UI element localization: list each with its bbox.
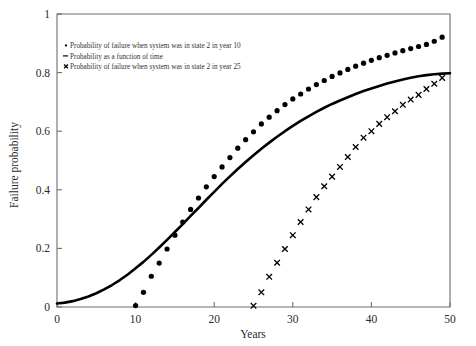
data-point-marker	[298, 91, 303, 96]
data-point-marker	[330, 74, 335, 79]
legend-dot-icon	[65, 44, 67, 46]
y-tick-label: 0	[44, 301, 50, 313]
data-point-marker	[322, 78, 327, 83]
x-tick-label: 20	[208, 313, 220, 325]
data-point-marker	[306, 86, 311, 91]
data-point-marker	[204, 184, 209, 189]
data-point-marker	[259, 121, 264, 126]
x-tick-label: 30	[287, 313, 299, 325]
x-tick-label: 0	[54, 313, 60, 325]
data-point-marker	[141, 290, 146, 295]
data-point-marker	[385, 53, 390, 58]
data-point-marker	[157, 260, 162, 265]
legend-item-label: Probability as a function of time	[70, 53, 163, 61]
data-point-marker	[251, 129, 256, 134]
y-axis-title: Failure probability	[8, 122, 21, 208]
data-point-marker	[408, 46, 413, 51]
x-axis-title: Years	[240, 328, 266, 340]
data-point-marker	[164, 246, 169, 251]
data-point-marker	[212, 174, 217, 179]
y-tick-label: 0.2	[36, 242, 51, 254]
x-tick-label: 50	[444, 313, 456, 325]
y-tick-label: 1	[44, 8, 50, 20]
data-point-marker	[172, 233, 177, 238]
data-point-marker	[235, 146, 240, 151]
data-point-marker	[282, 102, 287, 107]
data-point-marker	[440, 35, 445, 40]
data-point-marker	[227, 155, 232, 160]
data-point-marker	[353, 64, 358, 69]
y-tick-label: 0.4	[36, 184, 51, 196]
x-tick-label: 40	[366, 313, 378, 325]
y-tick-label: 0.8	[36, 67, 51, 79]
data-point-marker	[149, 274, 154, 279]
legend-item-label: Probability of failure when system was i…	[70, 63, 241, 71]
data-point-marker	[345, 67, 350, 72]
chart-figure: 01020304050 00.20.40.60.81 Years Failure…	[0, 0, 476, 346]
data-point-marker	[188, 207, 193, 212]
data-point-marker	[337, 70, 342, 75]
data-point-marker	[267, 115, 272, 120]
data-point-marker	[377, 55, 382, 60]
x-tick-label: 10	[130, 313, 142, 325]
data-point-marker	[416, 44, 421, 49]
data-point-marker	[432, 39, 437, 44]
data-point-marker	[290, 96, 295, 101]
data-point-marker	[196, 195, 201, 200]
legend-item-label: Probability of failure when system was i…	[70, 42, 241, 50]
data-point-marker	[274, 108, 279, 113]
data-point-marker	[424, 42, 429, 47]
data-point-marker	[219, 164, 224, 169]
y-tick-label: 0.6	[36, 125, 51, 137]
data-point-marker	[361, 61, 366, 66]
data-point-marker	[243, 137, 248, 142]
failure-probability-chart: 01020304050 00.20.40.60.81 Years Failure…	[0, 0, 476, 346]
data-point-marker	[314, 82, 319, 87]
data-point-marker	[392, 50, 397, 55]
data-point-marker	[133, 303, 138, 308]
data-point-marker	[180, 219, 185, 224]
data-point-marker	[369, 58, 374, 63]
data-point-marker	[400, 48, 405, 53]
